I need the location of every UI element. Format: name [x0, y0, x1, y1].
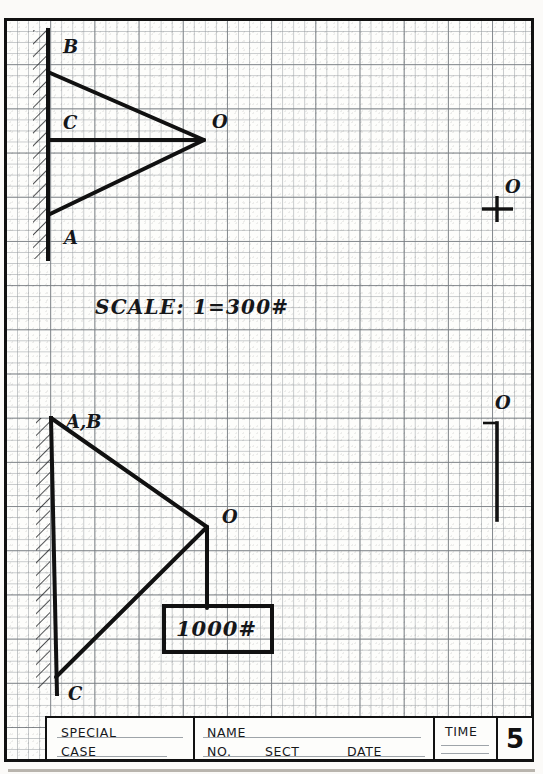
label-lower-ab: A,B	[66, 413, 101, 431]
label-lower-o: O	[222, 508, 238, 526]
label-lower-c: C	[68, 685, 82, 703]
title-block-rule	[441, 753, 489, 754]
title-block-time-label: TIME	[445, 724, 477, 739]
weight-box-label: 1000#	[176, 618, 257, 639]
title-block-sheet-number-cell[interactable]: 5	[498, 718, 532, 759]
title-block-rule	[203, 756, 425, 757]
label-lower-right-o: O	[495, 394, 511, 412]
title-block: SPECIAL CASE NAME NO. SECT DATE TIME 5	[45, 716, 534, 761]
title-block-rule	[57, 737, 183, 738]
sheet-bottom-edge	[8, 769, 535, 772]
scale-note: SCALE: 1=300#	[95, 297, 289, 317]
title-block-rule	[441, 745, 489, 746]
label-upper-b: B	[63, 38, 78, 56]
label-upper-a: A	[64, 229, 78, 247]
title-block-sheet-number: 5	[498, 718, 532, 759]
title-block-name-cell[interactable]: NAME NO. SECT DATE	[195, 718, 435, 759]
title-block-time-cell[interactable]: TIME	[435, 718, 498, 759]
label-upper-c: C	[63, 114, 77, 132]
label-upper-o: O	[212, 113, 228, 131]
label-upper-right-o: O	[505, 178, 521, 196]
title-block-special-case-cell[interactable]: SPECIAL CASE	[47, 718, 195, 759]
worksheet-sheet: B C A O O SCALE: 1=300# A,B O C O 1000# …	[0, 0, 543, 774]
title-block-rule	[57, 756, 167, 757]
title-block-rule	[203, 737, 421, 738]
graph-grid	[7, 21, 531, 759]
